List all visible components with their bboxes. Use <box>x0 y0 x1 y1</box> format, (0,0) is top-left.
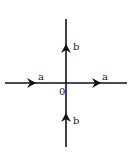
origin-label: 0 <box>59 86 65 97</box>
label-right-a: a <box>102 71 108 82</box>
path-diagram: a a b b 0 <box>0 0 134 156</box>
label-lower-b: b <box>73 115 79 126</box>
label-upper-b: b <box>73 41 79 52</box>
label-left-a: a <box>38 71 44 82</box>
diagram-svg: a a b b 0 <box>0 0 134 156</box>
